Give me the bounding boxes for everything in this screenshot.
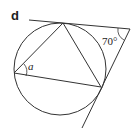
part-label: d — [11, 8, 19, 23]
angle-70-label: 70° — [102, 35, 117, 47]
circle-diagram — [0, 0, 137, 134]
angle-a-label: a — [28, 60, 34, 72]
geometry-figure: d a 70° — [0, 0, 137, 134]
